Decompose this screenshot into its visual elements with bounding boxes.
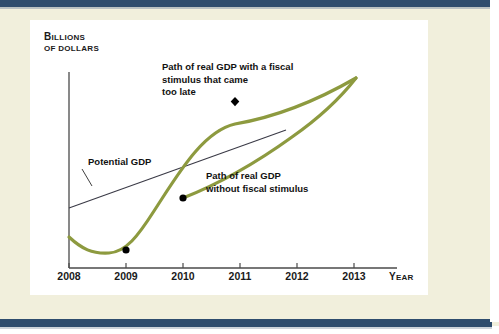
potential-gdp-line: [69, 130, 286, 208]
annotation-no-stimulus: Path of real GDP without fiscal stimulus: [206, 170, 308, 195]
x-tick-label-2013: 2013: [342, 270, 365, 282]
marker-branch-2010: [179, 194, 186, 201]
bottom-rule: [0, 319, 492, 327]
annotation-late-stimulus: Path of real GDP with a fiscal stimulus …: [162, 61, 293, 99]
x-axis-ticks: [69, 263, 354, 268]
top-rule: [0, 0, 490, 7]
marker-trough-2009: [122, 246, 129, 253]
potential-gdp-leader-line: [82, 169, 92, 186]
y-axis-title-line2: OF DOLLARS: [44, 45, 99, 53]
x-tick-label-2009: 2009: [114, 270, 137, 282]
x-tick-label-2012: 2012: [285, 270, 308, 282]
page-right-margin: [490, 6, 499, 322]
x-axis-title: YEAR: [389, 271, 413, 282]
figure-panel: BILLIONS OF DOLLARS 2008 2009 2010 2011 …: [30, 20, 428, 295]
x-tick-label-2011: 2011: [229, 270, 252, 282]
y-axis-title-line2-text: OF DOLLARS: [44, 44, 99, 53]
y-axis-title-line1: BILLIONS: [44, 32, 85, 43]
top-rule-shadow: [0, 7, 490, 9]
bottom-rule-shadow: [0, 327, 492, 329]
x-tick-label-2008: 2008: [57, 270, 80, 282]
y-axis-title-line1-text: BILLIONS: [44, 31, 85, 42]
annotation-potential-gdp: Potential GDP: [88, 156, 151, 169]
x-tick-label-2010: 2010: [171, 270, 194, 282]
